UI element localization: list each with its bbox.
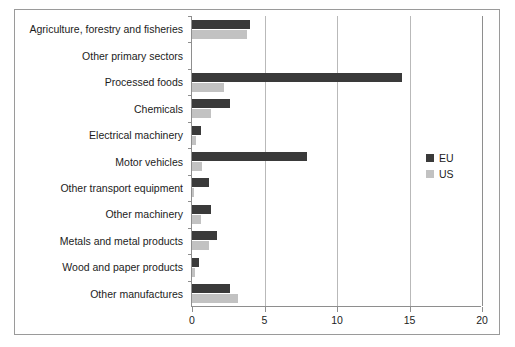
bar-group [192, 254, 481, 280]
y-tick [188, 201, 192, 202]
category-label: Motor vehicles [115, 156, 183, 168]
y-tick [188, 228, 192, 229]
bar-us [192, 294, 238, 303]
y-tick [188, 16, 192, 17]
x-tick-20 [482, 307, 483, 312]
bar-eu [192, 178, 209, 187]
bar-group [192, 69, 481, 95]
bar-eu [192, 73, 402, 82]
y-tick [188, 42, 192, 43]
bar-spacer [192, 55, 481, 56]
x-tick-label-5: 5 [262, 314, 268, 326]
bar-us [192, 268, 195, 277]
x-tick-10 [337, 307, 338, 312]
category-label: Wood and paper products [62, 261, 183, 273]
bar-us [192, 162, 202, 171]
bar-eu [192, 205, 211, 214]
category-label: Electrical machinery [89, 129, 183, 141]
category-label: Other transport equipment [60, 182, 183, 194]
bar-spacer [192, 214, 481, 215]
bar-eu [192, 231, 217, 240]
y-tick [188, 95, 192, 96]
chart-figure-frame: Agriculture, forestry and fisheriesOther… [14, 9, 500, 335]
bar-us [192, 188, 194, 197]
bar-us [192, 109, 211, 118]
x-tick-label-0: 0 [189, 314, 195, 326]
y-tick [188, 281, 192, 282]
bar-us [192, 136, 196, 145]
y-tick [188, 69, 192, 70]
legend-label: US [439, 169, 454, 179]
bar-eu [192, 152, 307, 161]
gridline-20 [482, 16, 483, 306]
x-tick-label-10: 10 [331, 314, 343, 326]
bar-us [192, 83, 224, 92]
x-tick-5 [265, 307, 266, 312]
category-label: Other machinery [105, 208, 183, 220]
chart-legend: EUUS [426, 153, 454, 179]
bar-spacer [192, 108, 481, 109]
bar-eu [192, 99, 230, 108]
category-label: Agriculture, forestry and fisheries [30, 23, 183, 35]
category-label: Metals and metal products [60, 235, 183, 247]
bar-us [192, 215, 201, 224]
bar-group [192, 42, 481, 68]
bar-us [192, 241, 209, 250]
category-label: Other primary sectors [82, 50, 183, 62]
bar-group [192, 228, 481, 254]
x-tick-15 [410, 307, 411, 312]
bar-us [192, 30, 247, 39]
y-tick [188, 175, 192, 176]
bar-spacer [192, 82, 481, 83]
category-axis-labels: Agriculture, forestry and fisheriesOther… [15, 16, 191, 307]
bar-spacer [192, 240, 481, 241]
legend-item-us: US [426, 169, 454, 179]
bar-group [192, 201, 481, 227]
legend-label: EU [439, 153, 454, 163]
y-tick [188, 148, 192, 149]
bar-eu [192, 20, 250, 29]
bar-spacer [192, 267, 481, 268]
bar-spacer [192, 187, 481, 188]
bar-group [192, 122, 481, 148]
bar-group [192, 95, 481, 121]
category-label: Processed foods [105, 76, 183, 88]
bar-eu [192, 284, 230, 293]
bar-eu [192, 126, 201, 135]
category-label: Chemicals [134, 103, 183, 115]
bar-eu [192, 258, 199, 267]
x-tick-0 [192, 307, 193, 312]
legend-swatch-icon [426, 170, 434, 178]
y-tick [188, 122, 192, 123]
legend-item-eu: EU [426, 153, 454, 163]
x-tick-label-20: 20 [476, 314, 488, 326]
y-tick [188, 254, 192, 255]
category-label: Other manufactures [90, 288, 183, 300]
bar-group [192, 16, 481, 42]
bar-group [192, 281, 481, 307]
legend-swatch-icon [426, 154, 434, 162]
bar-spacer [192, 135, 481, 136]
x-tick-label-15: 15 [404, 314, 416, 326]
